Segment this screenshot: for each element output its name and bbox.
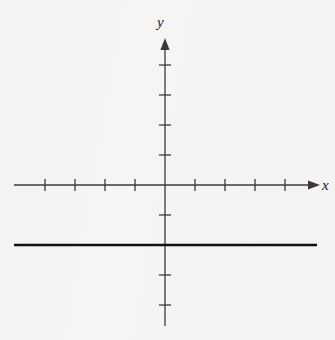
coordinate-plane-figure: y x [0, 0, 335, 340]
y-axis-arrowhead-icon [160, 38, 169, 50]
coordinate-plane-plot [0, 0, 335, 340]
x-axis-label: x [322, 178, 329, 193]
axes-group [14, 38, 320, 326]
x-axis-arrowhead-icon [308, 180, 320, 189]
y-axis-label: y [157, 15, 164, 30]
